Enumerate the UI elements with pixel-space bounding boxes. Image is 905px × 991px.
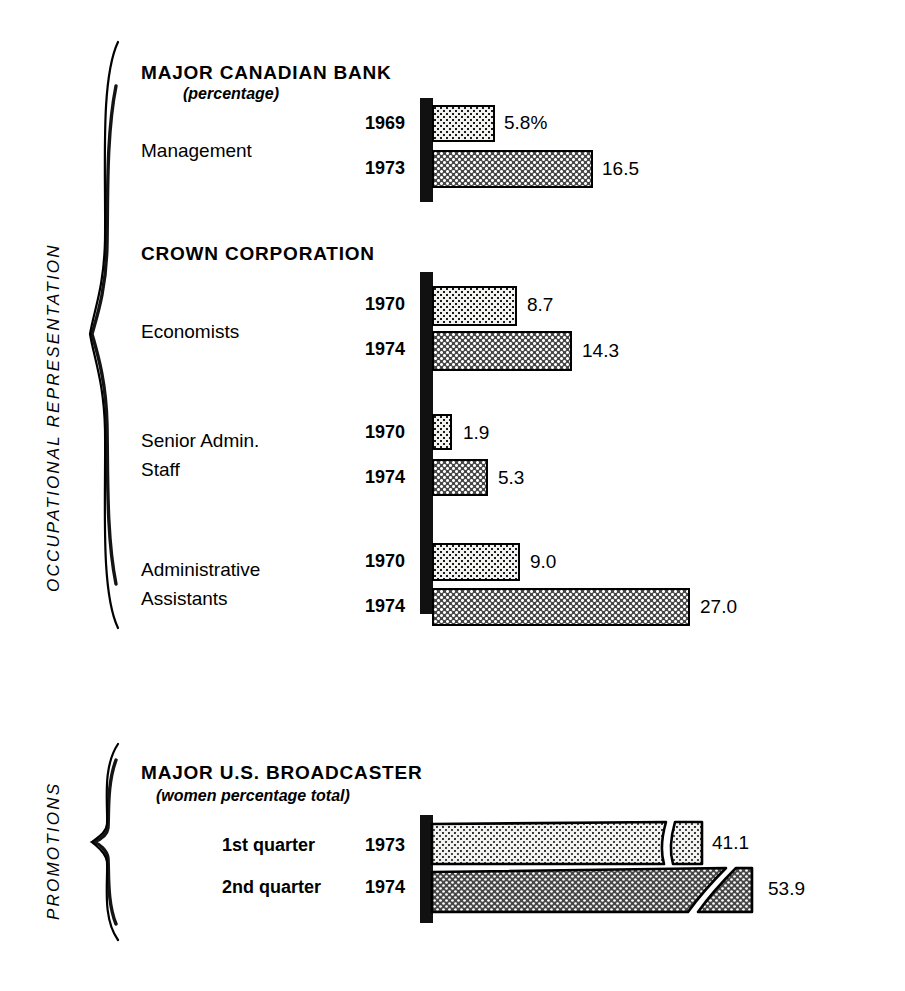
chart-page: OCCUPATIONAL REPRESENTATION MAJOR CANADI… (0, 0, 905, 991)
bar-economists-1974 (432, 331, 572, 371)
category-label-management: Management (141, 138, 252, 163)
brace-promotions (88, 742, 132, 942)
value-label-senior-admin-1974: 5.3 (498, 467, 524, 489)
bar-management-1969 (432, 105, 495, 142)
bar-administrative-1974 (432, 588, 690, 626)
value-label-administrative-1970: 9.0 (530, 551, 556, 573)
category-label-administrative-line2: Assistants (141, 586, 228, 611)
year-label-1974-senior-admin: 1974 (330, 467, 405, 488)
group-title-major-canadian-bank: MAJOR CANADIAN BANK (141, 62, 392, 84)
year-label-1969-bank: 1969 (330, 113, 405, 134)
bar-1st-quarter-1973 (430, 820, 730, 867)
value-label-2nd-quarter-1974: 53.9 (768, 878, 805, 900)
group-title-major-us-broadcaster: MAJOR U.S. BROADCASTER (141, 762, 423, 784)
side-caption-promotions: PROMOTIONS (44, 782, 64, 920)
value-label-management-1973: 16.5 (602, 158, 639, 180)
bar-senior-admin-1970 (432, 414, 452, 450)
value-label-administrative-1974: 27.0 (700, 596, 737, 618)
value-label-economists-1970: 8.7 (527, 294, 553, 316)
bar-economists-1970 (432, 286, 517, 326)
bar-administrative-1970 (432, 543, 520, 581)
value-label-management-1969: 5.8% (504, 112, 547, 134)
quarter-label-1st: 1st quarter (222, 835, 315, 856)
group-title-crown-corporation: CROWN CORPORATION (141, 243, 375, 265)
category-label-senior-admin-line1: Senior Admin. (141, 428, 259, 453)
year-label-1970-administrative: 1970 (330, 551, 405, 572)
year-label-1974-broadcaster: 1974 (330, 877, 405, 898)
side-caption-occupational-representation: OCCUPATIONAL REPRESENTATION (44, 243, 64, 592)
year-label-1974-administrative: 1974 (330, 596, 405, 617)
group-subtitle-major-canadian-bank: (percentage) (183, 85, 279, 103)
year-label-1973-broadcaster: 1973 (330, 835, 405, 856)
year-label-1970-economists: 1970 (330, 294, 405, 315)
category-label-senior-admin-line2: Staff (141, 457, 180, 482)
quarter-label-2nd: 2nd quarter (222, 877, 321, 898)
category-label-administrative-line1: Administrative (141, 557, 260, 582)
year-label-1974-economists: 1974 (330, 339, 405, 360)
bar-2nd-quarter-1974 (430, 866, 760, 916)
bar-senior-admin-1974 (432, 459, 488, 496)
value-label-1st-quarter-1973: 41.1 (712, 832, 749, 854)
category-label-economists: Economists (141, 319, 239, 344)
value-label-senior-admin-1970: 1.9 (463, 422, 489, 444)
value-label-economists-1974: 14.3 (582, 340, 619, 362)
brace-occupational-representation (86, 40, 132, 630)
year-label-1970-senior-admin: 1970 (330, 422, 405, 443)
year-label-1973-bank: 1973 (330, 158, 405, 179)
group-subtitle-major-us-broadcaster: (women percentage total) (156, 787, 350, 805)
bar-management-1973 (432, 150, 593, 188)
